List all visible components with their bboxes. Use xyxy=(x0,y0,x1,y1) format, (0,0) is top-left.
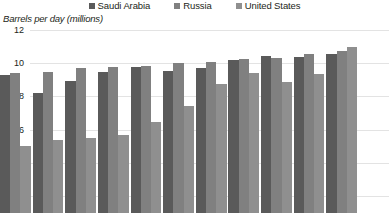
bar-saudi-arabia xyxy=(33,93,43,213)
bar-united-states xyxy=(184,106,194,213)
bar-russia xyxy=(108,67,118,213)
bar-group xyxy=(326,24,359,213)
bar-group xyxy=(33,24,66,213)
bar-group xyxy=(261,24,294,213)
bar-united-states xyxy=(20,146,30,213)
bar-group xyxy=(65,24,98,213)
bar-united-states xyxy=(314,74,324,213)
bar-saudi-arabia xyxy=(261,56,271,213)
bar-united-states xyxy=(151,122,161,213)
bar-saudi-arabia xyxy=(0,75,10,213)
bar-group xyxy=(163,24,196,213)
bar-russia xyxy=(271,58,281,213)
bar-united-states xyxy=(249,73,259,213)
bar-group xyxy=(228,24,261,213)
bar-saudi-arabia xyxy=(131,67,141,213)
bar-russia xyxy=(173,63,183,213)
chart-legend: Saudi ArabiaRussiaUnited States xyxy=(0,0,389,12)
bar-groups xyxy=(0,24,359,213)
bar-russia xyxy=(206,62,216,213)
bar-united-states xyxy=(53,140,63,213)
bar-russia xyxy=(141,66,151,213)
legend-item-united-states: United States xyxy=(236,1,301,11)
legend-swatch-icon xyxy=(236,3,242,9)
bar-saudi-arabia xyxy=(98,72,108,213)
bar-russia xyxy=(76,68,86,213)
bar-group xyxy=(98,24,131,213)
legend-swatch-icon xyxy=(89,3,95,9)
legend-item-label: Saudi Arabia xyxy=(98,1,151,11)
bar-russia xyxy=(43,72,53,214)
bar-saudi-arabia xyxy=(228,60,238,213)
bar-russia xyxy=(337,51,347,213)
legend-item-russia: Russia xyxy=(174,1,211,11)
bar-group xyxy=(294,24,327,213)
bar-saudi-arabia xyxy=(65,81,75,213)
bar-group xyxy=(196,24,229,213)
legend-item-label: Russia xyxy=(183,1,211,11)
legend-item-saudi-arabia: Saudi Arabia xyxy=(89,1,151,11)
plot-area: 12108642 xyxy=(0,24,389,213)
bar-united-states xyxy=(282,82,292,213)
bar-united-states xyxy=(216,84,226,213)
bar-saudi-arabia xyxy=(196,68,206,213)
bar-saudi-arabia xyxy=(163,71,173,213)
y-axis-title: Barrels per day (millions) xyxy=(3,13,103,24)
grouped-bar-chart: Saudi ArabiaRussiaUnited States Barrels … xyxy=(0,0,389,213)
bar-russia xyxy=(10,73,20,213)
bar-saudi-arabia xyxy=(294,57,304,213)
bar-united-states xyxy=(86,138,96,213)
bar-saudi-arabia xyxy=(326,54,336,213)
bar-united-states xyxy=(118,135,128,213)
bar-russia xyxy=(239,59,249,213)
bar-united-states xyxy=(347,47,357,213)
legend-item-label: United States xyxy=(245,1,301,11)
bar-russia xyxy=(304,54,314,213)
bar-group xyxy=(0,24,33,213)
bar-group xyxy=(131,24,164,213)
legend-swatch-icon xyxy=(174,3,180,9)
